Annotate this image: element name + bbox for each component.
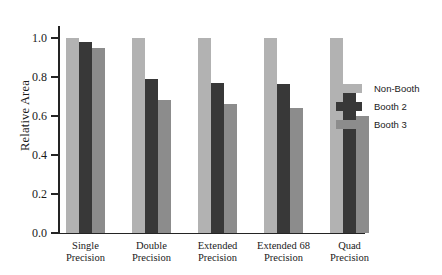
y-axis-tick-label: 0.4: [7, 149, 47, 161]
bar: [132, 38, 145, 233]
y-axis-tick-label: 0.2: [7, 188, 47, 200]
y-axis-tick-label: 0.6: [7, 110, 47, 122]
bar: [145, 79, 158, 233]
y-axis-tick: [51, 76, 58, 78]
y-axis-tick: [51, 115, 58, 117]
plot-area: [58, 28, 365, 233]
bar: [158, 100, 171, 233]
y-axis-tick-label: 0.8: [7, 71, 47, 83]
y-axis-tick-label: 0.0: [7, 227, 47, 239]
bar: [198, 38, 211, 233]
bar: [224, 104, 237, 233]
legend-label: Booth 3: [374, 118, 407, 131]
y-axis-tick: [51, 37, 58, 39]
y-axis-tick-label: 1.0: [7, 32, 47, 44]
y-axis-tick: [51, 232, 58, 234]
y-axis-tick: [51, 154, 58, 156]
bar: [92, 48, 105, 233]
y-axis-tick: [51, 193, 58, 195]
bar: [290, 108, 303, 233]
bar: [66, 38, 79, 233]
bar: [79, 42, 92, 233]
legend-label: Booth 2: [374, 100, 407, 113]
bar: [277, 84, 290, 233]
legend-swatch: [336, 84, 362, 93]
bar: [264, 38, 277, 233]
bar: [343, 92, 356, 233]
bar: [330, 38, 343, 233]
legend-label: Non-Booth: [374, 82, 419, 95]
bar: [211, 83, 224, 233]
legend-swatch: [336, 102, 362, 111]
bar-group: [330, 28, 369, 233]
bar-group: [132, 28, 171, 233]
bar: [356, 116, 369, 233]
bar-group: [264, 28, 303, 233]
bar-group: [66, 28, 105, 233]
bar-chart: Relative Area 0.00.20.40.60.81.0 SingleP…: [0, 0, 442, 275]
bar-group: [198, 28, 237, 233]
legend-swatch: [336, 120, 362, 129]
x-axis-label-line: Quad: [307, 240, 393, 252]
x-axis-label-line: Precision: [307, 252, 393, 264]
x-axis-label: QuadPrecision: [307, 240, 393, 264]
